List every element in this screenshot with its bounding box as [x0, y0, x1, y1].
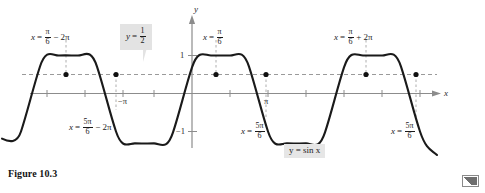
- label2-fraction: 5π6: [83, 118, 93, 137]
- callout-equals: =: [132, 31, 137, 41]
- point-label-3: x=π6: [203, 28, 223, 47]
- droplines: [66, 40, 416, 118]
- point-label-2: x=5π6− 2π: [69, 118, 112, 137]
- label6-fraction: 5π6: [405, 122, 415, 141]
- y-axis: [188, 15, 197, 148]
- label1-lhs: x: [31, 32, 35, 42]
- label5-denominator: 6: [348, 38, 354, 46]
- y-tick-label-neg1: −1: [176, 127, 185, 136]
- point-marker: [363, 72, 368, 77]
- label5-tail: + 2π: [356, 32, 372, 42]
- label3-numerator: π: [217, 28, 223, 36]
- label5-equals: =: [340, 32, 345, 42]
- figure-caption: Figure 10.3: [8, 168, 57, 179]
- point-label-6: x=5π6: [391, 122, 415, 141]
- label3-fraction: π6: [217, 28, 223, 47]
- label1-fraction: π6: [45, 28, 51, 47]
- callout-numerator: 1: [140, 27, 146, 35]
- y-tick-label-1: 1: [180, 51, 184, 60]
- label5-fraction: π6: [348, 28, 354, 47]
- label4-fraction: 5π6: [255, 122, 265, 141]
- label4-denominator: 6: [255, 132, 265, 140]
- label3-denominator: 6: [217, 38, 223, 46]
- label1-tail: − 2π: [53, 32, 69, 42]
- point-marker: [63, 72, 68, 77]
- function-label: y = sin x: [284, 144, 325, 158]
- point-marker: [213, 72, 218, 77]
- callout-lhs: y: [126, 31, 130, 41]
- label5-lhs: x: [334, 32, 338, 42]
- callout-tail-icon: [143, 44, 157, 62]
- label6-equals: =: [397, 126, 402, 136]
- point-marker: [413, 72, 418, 77]
- label4-equals: =: [247, 126, 252, 136]
- point-label-4: x=5π6: [241, 122, 265, 141]
- label2-lhs: x: [69, 122, 73, 132]
- label1-numerator: π: [45, 28, 51, 36]
- x-axis-label: x: [444, 89, 448, 98]
- point-marker: [113, 72, 118, 77]
- label2-tail: − 2π: [95, 122, 111, 132]
- label6-denominator: 6: [405, 132, 415, 140]
- point-label-1: x=π6− 2π: [31, 28, 70, 47]
- figure-container: x y 1 −1 −π π y=12 y = sin x x=π6− 2π x=…: [0, 0, 485, 193]
- resize-grip-icon[interactable]: [462, 175, 479, 187]
- label1-denominator: 6: [45, 38, 51, 46]
- x-axis: [30, 90, 441, 97]
- label2-denominator: 6: [83, 128, 93, 136]
- callout-fraction: 12: [140, 27, 146, 46]
- label2-numerator: 5π: [83, 118, 93, 126]
- label6-lhs: x: [391, 126, 395, 136]
- x-tick-label-neg-pi: −π: [118, 97, 127, 106]
- point-marker: [263, 72, 268, 77]
- label6-numerator: 5π: [405, 122, 415, 130]
- label1-equals: =: [37, 32, 42, 42]
- label3-lhs: x: [203, 32, 207, 42]
- label3-equals: =: [209, 32, 214, 42]
- sine-plot: [0, 0, 485, 193]
- sine-curve: [2, 54, 437, 155]
- label4-numerator: 5π: [255, 122, 265, 130]
- point-label-5: x=π6+ 2π: [334, 28, 373, 47]
- label4-lhs: x: [241, 126, 245, 136]
- y-axis-label: y: [194, 5, 198, 14]
- x-tick-label-pi: π: [264, 97, 268, 106]
- label5-numerator: π: [348, 28, 354, 36]
- label2-equals: =: [75, 122, 80, 132]
